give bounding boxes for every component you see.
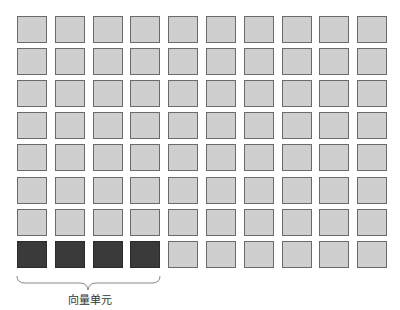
vector-unit-brace	[0, 0, 400, 310]
vector-unit-label: 向量单元	[20, 291, 160, 307]
